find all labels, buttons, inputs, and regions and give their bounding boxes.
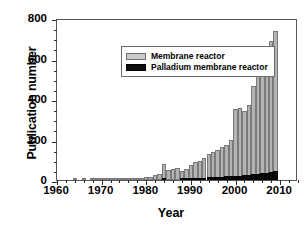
x-axis-minor-tick: [155, 180, 156, 183]
chart-legend: Membrane reactor Palladium membrane reac…: [121, 46, 275, 77]
x-axis-minor-tick: [173, 180, 174, 183]
publication-number-bar-chart: Publication number Year Membrane reactor…: [0, 0, 308, 230]
bars-layer: [57, 20, 296, 180]
x-axis-minor-tick: [137, 180, 138, 183]
x-axis-minor-tick: [298, 180, 299, 183]
x-axis-minor-tick: [200, 180, 201, 183]
x-axis-tick-label: 2010: [256, 184, 302, 196]
x-axis-minor-tick: [244, 180, 245, 183]
x-axis-tick-label: 1970: [78, 184, 124, 196]
bar-segment-palladium-membrane-reactor: [273, 171, 277, 180]
x-axis-title: Year: [45, 206, 297, 220]
plot-area: Membrane reactor Palladium membrane reac…: [56, 19, 297, 181]
x-axis-minor-tick: [182, 180, 183, 183]
x-axis-minor-tick: [66, 180, 67, 183]
x-axis-minor-tick: [93, 180, 94, 183]
y-axis-tick-label: 600: [0, 53, 47, 65]
bar-group: [82, 18, 86, 180]
x-axis-minor-tick: [128, 180, 129, 183]
x-axis-minor-tick: [84, 180, 85, 183]
x-axis-tick-label: 1990: [167, 184, 213, 196]
x-axis-minor-tick: [75, 180, 76, 183]
y-axis-tick-label: 200: [0, 134, 47, 146]
x-axis-minor-tick: [227, 180, 228, 183]
x-axis-minor-tick: [119, 180, 120, 183]
x-axis-tick-label: 1980: [122, 184, 168, 196]
x-axis-minor-tick: [164, 180, 165, 183]
y-axis-tick-label: 800: [0, 12, 47, 24]
x-axis-minor-tick: [253, 180, 254, 183]
x-axis-minor-tick: [209, 180, 210, 183]
y-axis-tick-label: 400: [0, 93, 47, 105]
bar-segment-membrane-reactor: [82, 178, 86, 180]
legend-swatch-palladium-membrane-reactor: [126, 64, 146, 71]
legend-item: Membrane reactor: [126, 51, 268, 61]
x-axis-minor-tick: [218, 180, 219, 183]
legend-label-palladium-membrane-reactor: Palladium membrane reactor: [151, 63, 268, 72]
x-axis-minor-tick: [271, 180, 272, 183]
legend-label-membrane-reactor: Membrane reactor: [151, 52, 225, 61]
y-axis-tick-label: 0: [0, 174, 47, 186]
legend-item: Palladium membrane reactor: [126, 62, 268, 72]
x-axis-minor-tick: [262, 180, 263, 183]
bar-group: [273, 18, 277, 180]
x-axis-tick-label: 2000: [212, 184, 258, 196]
bar-group: [73, 18, 77, 180]
x-axis-minor-tick: [111, 180, 112, 183]
legend-swatch-membrane-reactor: [126, 53, 146, 60]
bar-segment-membrane-reactor: [73, 178, 77, 180]
x-axis-minor-tick: [289, 180, 290, 183]
